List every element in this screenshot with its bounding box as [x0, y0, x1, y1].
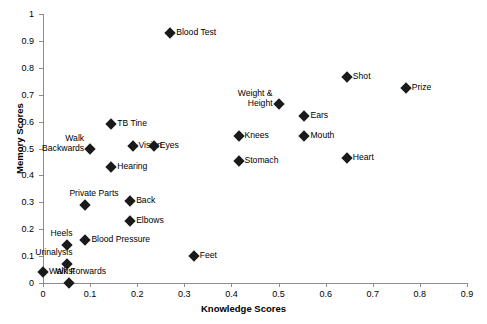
x-tick-mark [326, 283, 327, 287]
data-point-label: Blood Pressure [91, 234, 150, 244]
y-tick-label: 0.2 [4, 224, 34, 234]
y-tick-label: 0.1 [4, 251, 34, 261]
x-tick-mark [373, 283, 374, 287]
y-tick-label: 0.8 [4, 63, 34, 73]
data-point-label: Heart [353, 152, 374, 162]
data-point-label: Feet [200, 250, 217, 260]
data-point-label: Knees [245, 130, 269, 140]
diamond-marker-icon [84, 143, 95, 154]
diamond-marker-icon [400, 82, 411, 93]
plot-area: 00.10.20.30.40.50.60.70.80.91 00.10.20.3… [0, 0, 487, 324]
diamond-marker-icon [80, 199, 91, 210]
x-tick-label: 0.4 [211, 289, 251, 299]
y-tick-mark [39, 175, 43, 176]
x-tick-mark [231, 283, 232, 287]
diamond-marker-icon [37, 267, 48, 278]
y-tick-mark [39, 122, 43, 123]
data-point-label: Ears [310, 110, 328, 120]
y-tick-label: 0.9 [4, 36, 34, 46]
scatter-chart: 00.10.20.30.40.50.60.70.80.91 00.10.20.3… [0, 0, 487, 324]
diamond-marker-icon [233, 155, 244, 166]
data-point-label: Stomach [245, 155, 279, 165]
data-point-label: Back [136, 195, 155, 205]
data-point-label: Prize [412, 82, 432, 92]
data-point-label: TB Tine [117, 118, 147, 128]
data-point-label: Elbows [136, 215, 164, 225]
diamond-marker-icon [299, 111, 310, 122]
x-tick-mark [43, 283, 44, 287]
data-point-label: Mouth [310, 130, 334, 140]
x-tick-mark [184, 283, 185, 287]
y-tick-label: 0 [4, 278, 34, 288]
y-tick-mark [39, 229, 43, 230]
y-tick-mark [39, 41, 43, 42]
diamond-marker-icon [63, 277, 74, 288]
x-tick-label: 0.1 [70, 289, 110, 299]
diamond-marker-icon [124, 195, 135, 206]
x-tick-label: 0.3 [164, 289, 204, 299]
x-tick-label: 0.9 [447, 289, 487, 299]
diamond-marker-icon [233, 131, 244, 142]
x-tick-mark [279, 283, 280, 287]
diamond-marker-icon [127, 140, 138, 151]
x-tick-label: 0.6 [306, 289, 346, 299]
data-point-label: Hearing [117, 161, 147, 171]
data-point-label: Private Parts [69, 188, 118, 198]
x-axis-line [43, 283, 468, 284]
data-point-label: Heels [51, 228, 73, 238]
x-tick-label: 0.2 [117, 289, 157, 299]
x-tick-label: 0.7 [353, 289, 393, 299]
data-point-label: Wrist [55, 266, 74, 276]
diamond-marker-icon [341, 152, 352, 163]
diamond-marker-icon [188, 250, 199, 261]
diamond-marker-icon [273, 98, 284, 109]
data-point-label: Blood Test [176, 27, 216, 37]
data-point-label: Urinalysis [35, 247, 72, 257]
x-tick-mark [420, 283, 421, 287]
y-tick-mark [39, 202, 43, 203]
y-tick-mark [39, 95, 43, 96]
diamond-marker-icon [80, 234, 91, 245]
diamond-marker-icon [341, 72, 352, 83]
x-tick-mark [467, 283, 468, 287]
data-point-label: Shot [353, 71, 371, 81]
x-tick-label: 0.5 [259, 289, 299, 299]
x-axis-title: Knowledge Scores [0, 303, 487, 314]
x-tick-label: 0.8 [400, 289, 440, 299]
y-tick-mark [39, 14, 43, 15]
y-axis-title: Memory Scores [14, 89, 25, 189]
diamond-marker-icon [124, 215, 135, 226]
data-point-label: Eyes [160, 140, 179, 150]
y-tick-label: 0.3 [4, 197, 34, 207]
diamond-marker-icon [165, 27, 176, 38]
x-tick-mark [90, 283, 91, 287]
diamond-marker-icon [106, 119, 117, 130]
x-tick-label: 0 [23, 289, 63, 299]
data-point-label: Weight & Height [213, 88, 273, 108]
diamond-marker-icon [299, 131, 310, 142]
x-tick-mark [137, 283, 138, 287]
data-point-label: Walk Backwards [24, 133, 84, 153]
diamond-marker-icon [106, 162, 117, 173]
y-tick-label: 1 [4, 9, 34, 19]
y-tick-mark [39, 68, 43, 69]
